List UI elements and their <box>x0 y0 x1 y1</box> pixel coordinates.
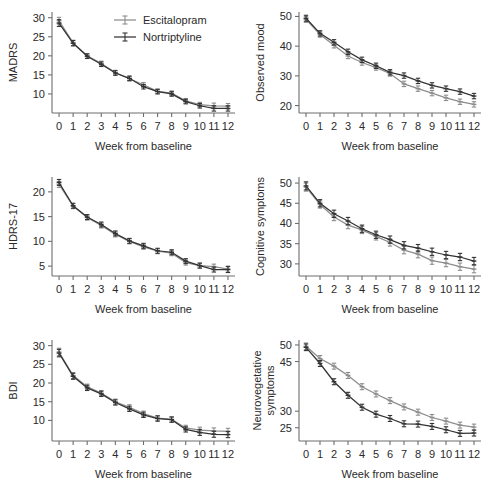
x-tick-label: 9 <box>429 448 435 460</box>
panel-middle-left: 51015200123456789101112HDRS-17Week from … <box>0 165 247 328</box>
x-tick-label: 12 <box>468 120 480 132</box>
x-tick-label: 12 <box>222 448 234 460</box>
x-tick-label: 12 <box>468 448 480 460</box>
x-tick-label: 6 <box>387 283 393 295</box>
x-tick-label: 9 <box>183 448 189 460</box>
y-tick-label: 40 <box>280 40 292 52</box>
y-tick-label: 50 <box>280 10 292 22</box>
panel-top-right: 203040500123456789101112Observed moodWee… <box>247 0 493 165</box>
legend: EscitalopramNortriptyline <box>114 14 207 43</box>
x-tick-label: 12 <box>468 283 480 295</box>
x-tick-label: 10 <box>194 120 206 132</box>
multi-panel-figure: 10152025300123456789101112MADRSWeek from… <box>0 0 493 493</box>
legend-label-nortriptyline: Nortriptyline <box>143 31 202 43</box>
y-tick-label: 35 <box>280 238 292 250</box>
x-tick-label: 2 <box>331 448 337 460</box>
panel-bottom-left: 10152025300123456789101112BDIWeek from b… <box>0 328 247 493</box>
x-tick-label: 12 <box>222 283 234 295</box>
x-tick-label: 5 <box>126 448 132 460</box>
x-tick-label: 11 <box>454 120 465 132</box>
y-axis-title: HDRS-17 <box>7 203 19 250</box>
y-axis-title: MADRS <box>7 43 19 83</box>
plot-middle-right: 30354045500123456789101112Cognitive symp… <box>247 165 493 328</box>
x-tick-label: 8 <box>415 120 421 132</box>
x-tick-label: 10 <box>194 283 206 295</box>
y-tick-label: 40 <box>280 217 292 229</box>
y-axis-title-line2: symptoms <box>264 365 276 416</box>
y-tick-label: 45 <box>280 197 292 209</box>
series-line <box>306 187 474 269</box>
x-tick-label: 5 <box>126 120 132 132</box>
y-axis-title: Observed mood <box>254 23 266 101</box>
y-tick-label: 5 <box>39 260 45 272</box>
x-tick-label: 1 <box>70 120 76 132</box>
x-tick-label: 11 <box>208 448 219 460</box>
x-tick-label: 10 <box>440 283 452 295</box>
x-tick-label: 7 <box>401 448 407 460</box>
x-tick-label: 0 <box>303 283 309 295</box>
x-tick-label: 0 <box>303 120 309 132</box>
plot-top-left: 10152025300123456789101112MADRSWeek from… <box>0 0 247 165</box>
x-tick-label: 6 <box>140 120 146 132</box>
series-line <box>59 182 228 269</box>
x-tick-label: 6 <box>387 120 393 132</box>
series-line <box>306 186 474 261</box>
x-tick-label: 1 <box>317 448 323 460</box>
y-tick-label: 30 <box>280 258 292 270</box>
x-tick-label: 9 <box>429 283 435 295</box>
series-line <box>59 184 228 269</box>
plot-bottom-right: 253045500123456789101112Neurovegetatives… <box>247 328 493 493</box>
x-tick-label: 2 <box>331 120 337 132</box>
x-tick-label: 2 <box>84 120 90 132</box>
series-line <box>306 18 474 96</box>
x-tick-label: 9 <box>429 120 435 132</box>
x-tick-label: 11 <box>208 283 219 295</box>
x-tick-label: 4 <box>112 283 118 295</box>
y-tick-label: 50 <box>280 177 292 189</box>
y-tick-label: 45 <box>280 356 292 368</box>
x-tick-label: 1 <box>317 283 323 295</box>
x-axis-title: Week from baseline <box>95 140 192 152</box>
y-tick-label: 30 <box>33 340 45 352</box>
x-tick-label: 9 <box>183 283 189 295</box>
x-tick-label: 12 <box>222 120 234 132</box>
x-tick-label: 8 <box>169 448 175 460</box>
y-tick-label: 25 <box>33 358 45 370</box>
x-tick-label: 11 <box>208 120 219 132</box>
x-axis-title: Week from baseline <box>95 303 192 315</box>
panel-middle-right: 30354045500123456789101112Cognitive symp… <box>247 165 493 328</box>
y-axis-title: Cognitive symptoms <box>254 176 266 276</box>
x-tick-label: 2 <box>84 448 90 460</box>
x-tick-label: 5 <box>126 283 132 295</box>
series-line <box>59 353 228 435</box>
y-axis-title: BDI <box>7 381 19 399</box>
x-tick-label: 3 <box>98 283 104 295</box>
series-escitalopram <box>57 348 231 434</box>
plot-middle-left: 51015200123456789101112HDRS-17Week from … <box>0 165 247 328</box>
x-tick-label: 0 <box>56 448 62 460</box>
y-tick-label: 50 <box>280 339 292 351</box>
plot-bottom-left: 10152025300123456789101112BDIWeek from b… <box>0 328 247 493</box>
x-tick-label: 0 <box>303 448 309 460</box>
x-tick-label: 4 <box>359 283 365 295</box>
series-line <box>306 19 474 104</box>
x-tick-label: 6 <box>387 448 393 460</box>
x-tick-label: 0 <box>56 120 62 132</box>
x-tick-label: 10 <box>194 448 206 460</box>
series-nortriptyline <box>304 15 477 98</box>
x-tick-label: 1 <box>70 283 76 295</box>
y-tick-label: 10 <box>33 235 45 247</box>
x-tick-label: 3 <box>345 283 351 295</box>
x-tick-label: 8 <box>415 283 421 295</box>
y-tick-label: 15 <box>33 396 45 408</box>
x-tick-label: 5 <box>373 448 379 460</box>
x-tick-label: 7 <box>155 120 161 132</box>
x-tick-label: 0 <box>56 283 62 295</box>
y-tick-label: 25 <box>33 31 45 43</box>
x-axis-title: Week from baseline <box>341 303 438 315</box>
x-tick-label: 3 <box>345 448 351 460</box>
x-tick-label: 5 <box>373 283 379 295</box>
x-axis-title: Week from baseline <box>341 468 438 480</box>
x-axis-title: Week from baseline <box>341 140 438 152</box>
x-tick-label: 8 <box>415 448 421 460</box>
